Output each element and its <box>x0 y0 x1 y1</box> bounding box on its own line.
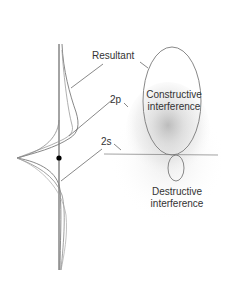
hybridization-diagram <box>0 0 228 282</box>
2s-label: 2s <box>101 136 112 148</box>
constructive-line1: Constructive <box>141 89 207 101</box>
2s-curve-lower <box>17 158 61 270</box>
constructive-interference-label: Constructive interference <box>141 89 207 113</box>
2p-leader <box>69 100 112 136</box>
destructive-line1: Destructive <box>144 186 210 198</box>
2p-label: 2p <box>110 94 121 106</box>
2s-leader <box>61 149 102 181</box>
2p-leader-right <box>124 103 128 107</box>
destructive-line2: interference <box>144 198 210 210</box>
resultant-curve-lower <box>17 158 64 270</box>
destructive-interference-label: Destructive interference <box>144 186 210 210</box>
resultant-leader-right <box>140 62 148 68</box>
resultant-label: Resultant <box>92 50 134 62</box>
nucleus-dot <box>56 155 61 160</box>
resultant-curve-upper <box>17 44 78 158</box>
constructive-line2: interference <box>141 101 207 113</box>
resultant-leader <box>71 64 103 88</box>
